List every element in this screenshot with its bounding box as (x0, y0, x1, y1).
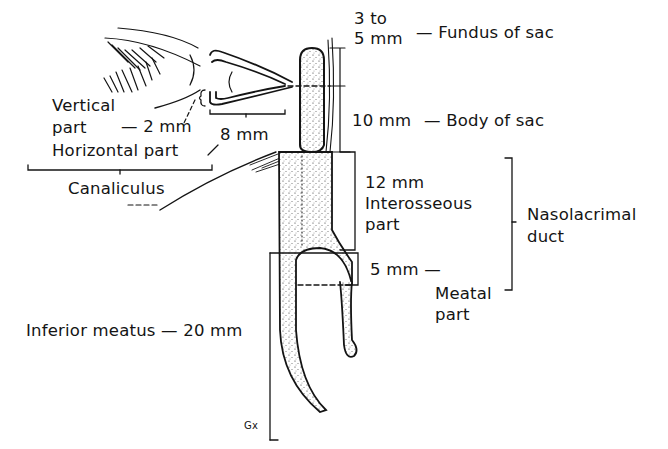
vertical-part-label: Vertical (52, 95, 115, 116)
meatal-part-label: Meatal (435, 283, 492, 304)
vertical-part-label-2: part (52, 117, 87, 138)
fundus-size-label: 3 to (354, 8, 387, 29)
interosseous-part-label: Interosseous (365, 193, 472, 214)
nasolacrimal-duct-label-2: duct (527, 226, 564, 247)
lacrimal-system-diagram: 3 to 5 mm — Fundus of sac 10 mm — Body o… (0, 0, 668, 449)
lacrimal-sac (300, 48, 324, 152)
vertical-size-label: — 2 mm (121, 116, 192, 137)
horizontal-size-label: 8 mm (220, 124, 269, 145)
nasolacrimal-duct-label: Nasolacrimal (527, 204, 636, 225)
fundus-size-label-2: 5 mm (354, 28, 403, 49)
fundus-of-sac-label: — Fundus of sac (416, 22, 554, 43)
artist-signature: Gx (244, 415, 258, 436)
horizontal-part-label: Horizontal part (52, 140, 178, 161)
meatal-part-label-2: part (435, 304, 470, 325)
interosseous-part-label-2: part (365, 214, 400, 235)
body-of-sac-label: — Body of sac (424, 110, 544, 131)
body-size-label: 10 mm (352, 110, 411, 131)
inferior-meatus-label: Inferior meatus — 20 mm (26, 320, 243, 341)
interosseous-size-label: 12 mm (365, 172, 424, 193)
canaliculus-label: Canaliculus (68, 178, 165, 199)
meatal-size-label: 5 mm — (370, 259, 441, 280)
eyelid-lashes (104, 28, 200, 92)
